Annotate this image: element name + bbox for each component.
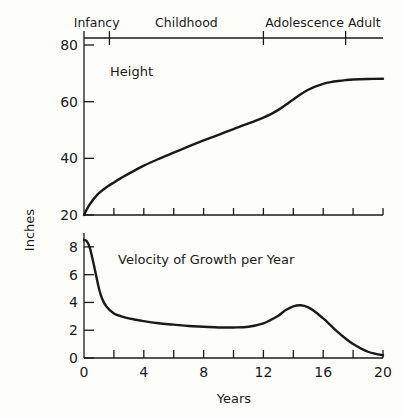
height-series-label: Height — [110, 64, 153, 79]
height-y-tick-labels: 20406080 — [60, 37, 78, 223]
height-y-tick-label: 40 — [60, 150, 78, 166]
life-stage-label: Childhood — [155, 15, 218, 30]
life-stage-label: Adolescence — [265, 15, 344, 30]
height-y-tick-label: 80 — [60, 37, 78, 53]
height-y-tick-label: 20 — [60, 207, 78, 223]
life-stage-axis: InfancyChildhoodAdolescenceAdult — [74, 15, 383, 45]
velocity-y-tick-label: 0 — [69, 350, 78, 366]
velocity-x-tick-label: 8 — [199, 364, 208, 380]
velocity-x-ticks — [114, 350, 383, 358]
velocity-x-tick-label: 4 — [139, 364, 148, 380]
life-stage-labels: InfancyChildhoodAdolescenceAdult — [74, 15, 381, 30]
height-chart: 20406080 Height — [60, 37, 383, 223]
velocity-y-tick-label: 8 — [69, 239, 78, 255]
life-stage-label: Adult — [348, 15, 381, 30]
velocity-y-tick-label: 4 — [69, 294, 78, 310]
velocity-x-tick-label: 0 — [80, 364, 89, 380]
life-stage-label: Infancy — [74, 15, 120, 30]
velocity-x-tick-label: 20 — [374, 364, 392, 380]
velocity-y-tick-label: 6 — [69, 267, 78, 283]
velocity-y-tick-labels: 02468 — [69, 239, 78, 366]
growth-chart-figure: InfancyChildhoodAdolescenceAdult 2040608… — [0, 0, 403, 418]
velocity-x-tick-label: 16 — [314, 364, 332, 380]
velocity-y-tick-label: 2 — [69, 322, 78, 338]
velocity-chart: 02468 048121620 Velocity of Growth per Y… — [69, 233, 392, 380]
velocity-x-tick-labels: 048121620 — [80, 364, 392, 380]
velocity-x-tick-label: 12 — [254, 364, 272, 380]
velocity-series-label: Velocity of Growth per Year — [118, 252, 295, 267]
height-y-tick-label: 60 — [60, 94, 78, 110]
height-y-ticks — [84, 45, 94, 215]
chart-canvas: InfancyChildhoodAdolescenceAdult 2040608… — [0, 0, 403, 418]
y-axis-title: Inches — [22, 209, 37, 251]
height-x-ticks — [114, 208, 383, 215]
x-axis-title: Years — [216, 391, 252, 406]
height-curve — [84, 79, 383, 215]
